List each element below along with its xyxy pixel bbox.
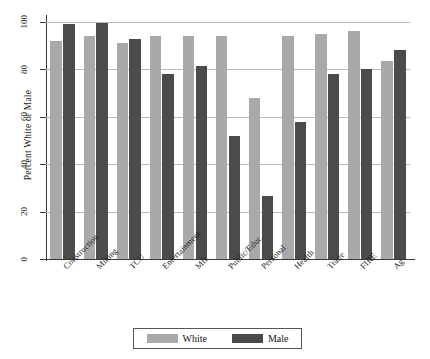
bar-white-7 (282, 36, 294, 259)
bar-white-10 (381, 61, 393, 259)
bar-male-5 (229, 136, 241, 259)
bar-white-0 (50, 41, 62, 259)
legend-swatch-male (232, 334, 263, 343)
y-tick-label-text: 100 (20, 15, 38, 29)
bar-white-3 (150, 36, 162, 259)
y-tick-label-text: 40 (20, 160, 38, 169)
chart-legend: White Male (133, 328, 302, 349)
bar-male-10 (394, 50, 406, 259)
y-tick-label: 80 (20, 56, 38, 82)
y-tick-label: 20 (20, 199, 38, 225)
bar-male-0 (63, 24, 75, 259)
y-tick-label-text: 80 (20, 65, 38, 74)
bar-white-4 (183, 36, 195, 259)
y-tick-label-text: 0 (20, 257, 38, 262)
bar-chart: Percent White or Male 020406080100 Const… (0, 0, 430, 359)
y-tick-label: 100 (20, 9, 38, 35)
bar-white-1 (84, 36, 96, 259)
y-tick-label: 60 (20, 104, 38, 130)
bar-white-9 (348, 31, 360, 259)
plot-area: 020406080100 (46, 22, 410, 259)
y-tick-mark (40, 117, 46, 118)
bar-male-8 (328, 74, 340, 259)
legend-label-white: White (183, 333, 207, 344)
bar-white-2 (117, 43, 129, 259)
bar-male-2 (129, 39, 141, 259)
y-tick-mark (40, 164, 46, 165)
bar-male-7 (295, 122, 307, 259)
y-tick-label: 40 (20, 151, 38, 177)
y-tick-mark (40, 22, 46, 23)
legend-label-male: Male (268, 333, 289, 344)
y-tick-mark (40, 69, 46, 70)
bar-white-8 (315, 34, 327, 259)
y-tick-label-text: 60 (20, 112, 38, 121)
legend-entry-male: Male (232, 333, 289, 344)
bar-male-3 (162, 74, 174, 259)
bar-male-9 (361, 69, 373, 259)
legend-swatch-white (147, 334, 178, 343)
bar-male-1 (96, 23, 108, 259)
y-tick-label-text: 20 (20, 207, 38, 216)
legend-entry-white: White (147, 333, 207, 344)
y-tick-mark (40, 212, 46, 213)
y-tick-mark (40, 259, 46, 260)
y-tick-label: 0 (20, 246, 38, 272)
bar-white-5 (216, 36, 228, 259)
